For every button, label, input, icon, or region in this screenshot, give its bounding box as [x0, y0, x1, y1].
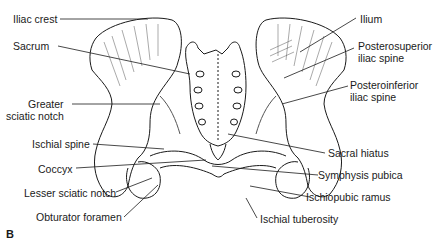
label-posteroinferior-line1: Posteroinferior	[350, 79, 418, 91]
label-posteroinferior-line2: iliac spine	[350, 91, 418, 103]
label-posterosuperior-line1: Posterosuperior	[358, 40, 432, 52]
label-greater-sciatic-notch: Greater sciatic notch	[6, 98, 70, 122]
label-ilium: Ilium	[360, 13, 382, 25]
label-symphysis-pubica: Symphysis pubica	[318, 169, 403, 181]
label-ischial-tuberosity: Ischial tuberosity	[260, 213, 338, 225]
label-posterosuperior-iliac-spine: Posterosuperior iliac spine	[358, 40, 432, 64]
label-sacrum: Sacrum	[13, 40, 49, 52]
panel-label: B	[6, 228, 14, 240]
label-posteroinferior-iliac-spine: Posteroinferior iliac spine	[350, 79, 418, 103]
label-ischial-spine: Ischial spine	[32, 138, 90, 150]
label-obturator-foramen: Obturator foramen	[36, 211, 122, 223]
label-iliac-crest: Iliac crest	[13, 13, 57, 25]
label-ischiopubic-ramus: Ischiopubic ramus	[306, 191, 391, 203]
label-lesser-sciatic-notch: Lesser sciatic notch	[24, 187, 116, 199]
label-posterosuperior-line2: iliac spine	[358, 52, 432, 64]
label-greater-sciatic-notch-line1: Greater	[6, 98, 70, 110]
label-greater-sciatic-notch-line2: sciatic notch	[6, 110, 70, 122]
label-sacral-hiatus: Sacral hiatus	[328, 147, 389, 159]
label-coccyx: Coccyx	[38, 163, 72, 175]
